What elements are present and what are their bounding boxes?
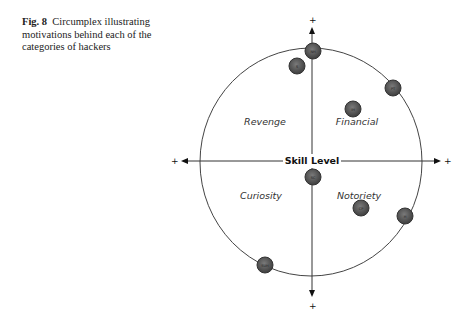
node-s: S — [289, 58, 305, 74]
skill-level-label: Skill Level — [285, 155, 340, 166]
svg-text:IH: IH — [351, 108, 355, 112]
arrow-down-icon — [309, 290, 315, 297]
svg-text:SC: SC — [311, 176, 316, 180]
node-suh: SUH — [257, 257, 273, 273]
quadrant-curiosity: Curiosity — [240, 190, 282, 201]
node-sc: SC — [305, 169, 321, 185]
svg-text:SUH: SUH — [261, 264, 269, 268]
svg-text:H: H — [404, 215, 407, 219]
circumplex-diagram: + + + + Skill Level Revenge Financial Cu… — [0, 0, 475, 333]
node-cp: CP — [353, 200, 369, 216]
quadrant-financial: Financial — [336, 116, 379, 127]
arrow-right-icon — [434, 158, 441, 164]
svg-text:NH: NH — [310, 50, 316, 54]
node-nh: NH — [305, 43, 321, 59]
arrow-left-icon — [181, 158, 188, 164]
plus-bottom: + — [309, 301, 317, 311]
svg-text:CP: CP — [359, 207, 364, 211]
plus-top: + — [309, 15, 317, 25]
node-ih: IH — [345, 101, 361, 117]
arrow-up-icon — [309, 27, 315, 34]
plus-right: + — [444, 156, 452, 166]
node-pt: PT — [385, 80, 401, 96]
quadrant-revenge: Revenge — [244, 116, 286, 127]
node-h: H — [397, 208, 413, 224]
plus-left: + — [171, 156, 179, 166]
quadrant-notoriety: Notoriety — [337, 190, 382, 201]
